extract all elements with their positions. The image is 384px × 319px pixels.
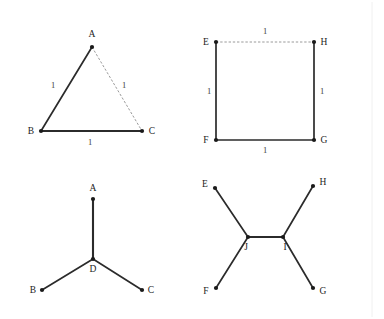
vertex-dot-E xyxy=(213,186,217,190)
figure-triangle-spanning-tree: 111ABC xyxy=(28,29,155,147)
figures-svg: 111ABC1111EHFGABCDEHFGJI xyxy=(0,0,384,319)
edge-weight-E-F: 1 xyxy=(207,86,211,96)
vertex-label-F: F xyxy=(203,135,208,145)
edge-A-C xyxy=(92,47,142,131)
vertex-dot-H xyxy=(312,40,316,44)
edge-I-H xyxy=(283,186,313,237)
edge-weight-A-C: 1 xyxy=(122,80,126,90)
edge-weight-E-H: 1 xyxy=(263,26,267,36)
figure-square-steiner-tree: EHFGJI xyxy=(202,177,326,296)
vertex-dot-F xyxy=(214,286,218,290)
vertex-label-A: A xyxy=(89,29,96,39)
vertex-dot-I xyxy=(281,235,285,239)
vertex-label-H: H xyxy=(321,37,328,47)
vertex-dot-F xyxy=(214,138,218,142)
vertex-dot-B xyxy=(39,129,43,133)
vertex-label-F: F xyxy=(203,286,208,296)
vertex-label-C: C xyxy=(149,126,155,136)
figure-canvas: 111ABC1111EHFGABCDEHFGJI xyxy=(0,0,384,319)
edge-weight-B-C: 1 xyxy=(88,137,92,147)
edge-D-B xyxy=(42,259,93,290)
edge-weight-A-B: 1 xyxy=(51,80,55,90)
vertex-label-G: G xyxy=(320,286,327,296)
vertex-dot-J xyxy=(246,235,250,239)
vertex-label-J: J xyxy=(244,242,248,252)
edge-D-C xyxy=(93,259,142,290)
edge-weight-F-G: 1 xyxy=(263,145,267,155)
vertex-dot-B xyxy=(40,288,44,292)
edge-A-B xyxy=(41,47,92,131)
vertex-dot-A xyxy=(91,197,95,201)
vertex-label-D: D xyxy=(90,264,97,274)
vertex-label-A: A xyxy=(90,183,97,193)
figure-square-spanning-tree: 1111EHFG xyxy=(203,26,327,155)
vertex-dot-H xyxy=(311,184,315,188)
vertex-dot-C xyxy=(140,129,144,133)
vertex-label-B: B xyxy=(28,126,34,136)
edge-weight-H-G: 1 xyxy=(320,86,324,96)
vertex-dot-D xyxy=(91,257,95,261)
vertex-label-E: E xyxy=(202,179,208,189)
vertex-label-I: I xyxy=(283,242,286,252)
edge-J-E xyxy=(215,188,248,237)
figure-triangle-steiner-tree: ABCD xyxy=(30,183,154,295)
vertex-label-C: C xyxy=(148,285,154,295)
vertex-dot-G xyxy=(312,138,316,142)
vertex-label-E: E xyxy=(203,37,209,47)
vertex-dot-E xyxy=(214,40,218,44)
vertex-dot-C xyxy=(140,288,144,292)
vertex-dot-G xyxy=(311,286,315,290)
edge-I-G xyxy=(283,237,313,288)
vertex-dot-A xyxy=(90,45,94,49)
vertex-label-B: B xyxy=(30,285,36,295)
vertex-label-H: H xyxy=(320,177,327,187)
vertex-label-G: G xyxy=(321,135,328,145)
